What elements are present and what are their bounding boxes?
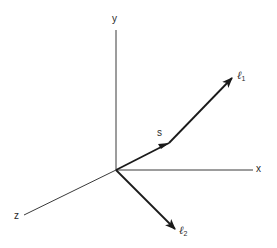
vector-l1 <box>169 78 232 143</box>
coordinate-system-graphic <box>0 0 277 248</box>
y-axis-label: y <box>112 14 117 24</box>
x-axis-label: x <box>256 164 261 174</box>
vector-l2-subscript: 2 <box>184 230 188 237</box>
diagram-canvas: y x z s ℓ1 ℓ2 <box>0 0 277 248</box>
vector-l1-label: ℓ1 <box>237 70 246 82</box>
z-axis-label: z <box>14 211 19 221</box>
vector-l2-label: ℓ2 <box>179 225 188 237</box>
vector-l1-subscript: 1 <box>242 75 246 82</box>
vector-l2 <box>116 170 175 229</box>
z-axis <box>24 170 116 215</box>
vector-s-label: s <box>157 128 162 138</box>
